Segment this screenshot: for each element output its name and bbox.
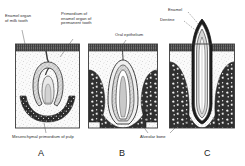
tooth-development-figure — [0, 0, 245, 166]
label-dentine: Dentine — [160, 18, 174, 23]
label-enamel: Enamel — [168, 8, 182, 13]
panel-letter-a: A — [38, 148, 44, 158]
label-primordium-permanent-tooth: Primordium of enamel organ of permanent … — [61, 12, 92, 26]
panel-letter-b: B — [119, 148, 125, 158]
panel-letter-c: C — [204, 148, 211, 158]
panel-a — [16, 44, 80, 128]
panel-a-oral-epithelium — [16, 44, 80, 51]
label-enamel-organ-milk-tooth: Enamel organ of milk tooth — [5, 14, 31, 23]
label-mesenchymal-primordium-pulp: Mesenchymal primordium of pulp — [12, 135, 74, 140]
label-alveolar-bone: Alveolar bone — [140, 135, 166, 140]
panel-b-pulp — [120, 76, 127, 117]
panel-b-oral-epithelium — [89, 44, 158, 51]
label-oral-epithelium: Oral epithelium — [115, 33, 143, 38]
panel-b — [89, 44, 158, 128]
panel-b-dental-lamina — [122, 51, 123, 60]
